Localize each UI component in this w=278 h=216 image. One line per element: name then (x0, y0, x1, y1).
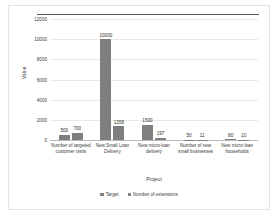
gridline-0: 0 (50, 140, 258, 141)
y-tick-label: 0 (44, 139, 47, 144)
plot-top-border (37, 14, 259, 15)
bar-group: 50 11 (175, 19, 217, 140)
bar-wrapper: 11 (197, 19, 208, 140)
bar-target[interactable] (142, 125, 153, 140)
bar-wrapper: 197 (155, 19, 166, 140)
y-tick-label: 6000 (37, 78, 47, 83)
bar-group: 1500 197 (133, 19, 175, 140)
bar-group: 500 700 (50, 19, 92, 140)
bar-wrapper: 80 (225, 19, 236, 140)
bar-extensions[interactable] (155, 138, 166, 140)
bar-value-label: 1358 (114, 121, 124, 126)
x-tick-label: New micro-loan households (216, 143, 258, 155)
y-tick-label: 10000 (34, 38, 47, 43)
bar-value-label: 700 (73, 127, 81, 132)
bar-value-label: 80 (228, 134, 233, 139)
bar-group: 10000 1358 (92, 19, 134, 140)
y-tick-label: 8000 (37, 58, 47, 63)
y-tick-label: 2000 (37, 119, 47, 124)
legend-swatch-icon (128, 193, 132, 197)
x-tick-label: Number of new small businesses (175, 143, 217, 155)
x-axis-tick-labels: Number of targeted customer visits New S… (50, 143, 258, 155)
legend-label: Number of extensions (133, 192, 178, 197)
bar-wrapper: 1358 (113, 19, 124, 140)
bar-wrapper: 700 (72, 19, 83, 140)
legend-label: Target (106, 192, 119, 197)
legend-swatch-icon (100, 193, 104, 197)
bar-value-label: 10 (241, 134, 246, 139)
bar-value-label: 1500 (142, 119, 152, 124)
bar-wrapper: 10000 (100, 19, 111, 140)
y-tick-label: 4000 (37, 98, 47, 103)
plot-area: 12000 10000 8000 6000 4000 2000 0 500 (50, 19, 258, 140)
bar-value-label: 10000 (100, 34, 113, 39)
legend-item-target[interactable]: Target (100, 192, 118, 197)
bar-target[interactable] (184, 140, 195, 141)
y-axis-title: Value (22, 67, 27, 79)
x-tick-label: New Small Loan Delivery (92, 143, 134, 155)
x-tick-label: Number of targeted customer visits (50, 143, 92, 155)
bar-extensions[interactable] (72, 133, 83, 140)
bar-target[interactable] (225, 139, 236, 140)
bar-value-label: 197 (157, 132, 165, 137)
x-axis-title: Project (50, 176, 258, 182)
bar-extensions[interactable] (113, 126, 124, 140)
x-tick-label: New micro-loan delivery (133, 143, 175, 155)
bar-wrapper: 500 (59, 19, 70, 140)
bar-wrapper: 1500 (142, 19, 153, 140)
bar-wrapper: 50 (184, 19, 195, 140)
legend-item-extensions[interactable]: Number of extensions (128, 192, 178, 197)
bar-value-label: 500 (60, 129, 68, 134)
bar-group: 80 10 (216, 19, 258, 140)
bar-value-label: 11 (200, 134, 205, 139)
chart-container: Value 12000 10000 8000 6000 4000 2000 0 (8, 5, 270, 210)
y-tick-label: 12000 (34, 18, 47, 23)
bar-wrapper: 10 (238, 19, 249, 140)
bar-value-label: 50 (187, 134, 192, 139)
bar-groups: 500 700 10000 1358 (50, 19, 258, 140)
bar-target[interactable] (59, 135, 70, 140)
chart-legend: Target Number of extensions (9, 192, 269, 197)
bar-target[interactable] (100, 39, 111, 140)
